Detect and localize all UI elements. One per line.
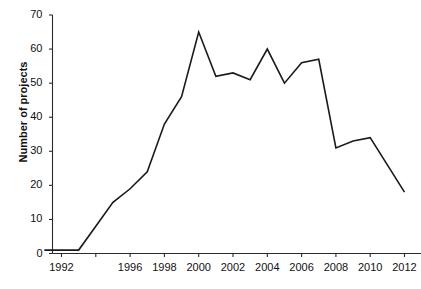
data-series-line — [44, 32, 404, 250]
axis-lines — [53, 15, 421, 254]
line-chart: Number of projects 010203040506070 19921… — [0, 0, 421, 289]
plot-area — [0, 0, 421, 289]
